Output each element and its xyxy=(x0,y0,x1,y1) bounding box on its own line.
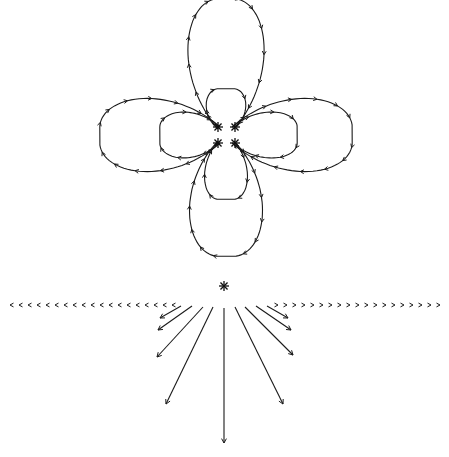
arrowhead-icon xyxy=(172,303,176,307)
charge-icon xyxy=(213,138,223,148)
arrowhead-icon xyxy=(100,303,104,307)
arrowhead-icon xyxy=(351,144,355,148)
arrowhead-icon xyxy=(274,303,278,307)
arrowhead-icon xyxy=(91,303,95,307)
quadrupole-field-lines xyxy=(97,0,354,259)
arrowhead-icon xyxy=(145,303,149,307)
arrowhead-icon xyxy=(296,144,299,148)
arrowhead-icon xyxy=(400,303,404,307)
arrowhead-icon xyxy=(64,303,68,307)
arrowhead-icon xyxy=(301,303,305,307)
arrowhead-icon xyxy=(409,303,413,307)
arrowhead-icon xyxy=(310,303,314,307)
arrowhead-icon xyxy=(418,303,422,307)
arrowhead-icon xyxy=(346,303,350,307)
field-loop-right-outer xyxy=(232,98,352,171)
field-line-diagram xyxy=(0,0,449,457)
arrowhead-icon xyxy=(73,303,77,307)
arrowhead-icon xyxy=(109,303,113,307)
arrowhead-icon xyxy=(382,303,386,307)
arrowhead-icon xyxy=(337,303,341,307)
arrowhead-icon xyxy=(28,303,32,307)
arrowhead-icon xyxy=(355,303,359,307)
charge-icon xyxy=(230,122,240,132)
arrowhead-icon xyxy=(97,122,101,126)
point-charge xyxy=(219,281,229,291)
arrowhead-icon xyxy=(283,303,287,307)
arrowhead-icon xyxy=(154,303,158,307)
point-charge-field-lines xyxy=(10,303,440,443)
arrowhead-icon xyxy=(373,303,377,307)
arrowhead-icon xyxy=(82,303,86,307)
charge-icon xyxy=(230,138,240,148)
arrowhead-icon xyxy=(319,303,323,307)
arrowhead-icon xyxy=(163,303,167,307)
arrowhead-icon xyxy=(55,303,59,307)
arrowhead-icon xyxy=(292,303,296,307)
arrowhead-icon xyxy=(427,303,431,307)
field-loop-top-outer xyxy=(188,0,264,129)
arrowhead-icon xyxy=(37,303,41,307)
quadrupole-charges xyxy=(213,122,240,148)
arrowhead-icon xyxy=(328,303,332,307)
arrowhead-icon xyxy=(364,303,368,307)
arrowhead-icon xyxy=(46,303,50,307)
arrowhead-icon xyxy=(127,303,131,307)
charge-icon xyxy=(219,281,229,291)
arrowhead-icon xyxy=(10,303,14,307)
charge-icon xyxy=(213,122,223,132)
arrowhead-icon xyxy=(391,303,395,307)
arrowhead-icon xyxy=(19,303,23,307)
arrowhead-icon xyxy=(118,303,122,307)
arrowhead-icon xyxy=(136,303,140,307)
arrowhead-icon xyxy=(436,303,440,307)
